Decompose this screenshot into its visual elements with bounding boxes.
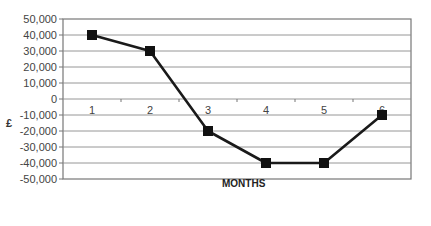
y-axis-label: £ xyxy=(6,117,12,129)
data-point-marker xyxy=(319,158,329,168)
data-point-marker xyxy=(377,110,387,120)
x-tick-label: 5 xyxy=(321,104,327,116)
x-axis-label: MONTHS xyxy=(222,178,266,189)
y-tick-label: -10,000 xyxy=(20,109,57,121)
data-point-marker xyxy=(261,158,271,168)
y-tick-label: 0 xyxy=(51,93,57,105)
x-tick-label: 4 xyxy=(263,104,269,116)
y-tick-label: -50,000 xyxy=(20,173,57,185)
x-tick-label: 1 xyxy=(89,104,95,116)
y-tick-label: -40,000 xyxy=(20,157,57,169)
y-tick-label: 50,000 xyxy=(23,13,57,25)
x-tick-label: 3 xyxy=(205,104,211,116)
y-tick-label: -20,000 xyxy=(20,125,57,137)
y-tick-label: 40,000 xyxy=(23,29,57,41)
y-tick-label: -30,000 xyxy=(20,141,57,153)
x-tick-label: 2 xyxy=(147,104,153,116)
y-tick-label: 10,000 xyxy=(23,77,57,89)
y-tick-label: 30,000 xyxy=(23,45,57,57)
y-axis-ticks: 50,00040,00030,00020,00010,0000-10,000-2… xyxy=(20,13,63,185)
y-tick-label: 20,000 xyxy=(23,61,57,73)
line-chart: 50,00040,00030,00020,00010,0000-10,000-2… xyxy=(0,0,431,226)
data-point-marker xyxy=(145,46,155,56)
data-point-marker xyxy=(87,30,97,40)
data-point-marker xyxy=(203,126,213,136)
